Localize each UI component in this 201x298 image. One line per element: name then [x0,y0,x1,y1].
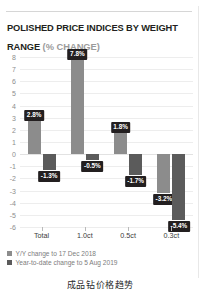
x-axis-label: Total [34,231,49,240]
bar [71,59,84,154]
legend-label: Y/Y change to 17 Dec 2018 [16,250,97,257]
y-axis-tick-label: 8 [2,54,16,61]
gridline [20,142,193,143]
bar-value-label: -1.7% [125,176,147,187]
bar [86,154,99,160]
gridline [20,130,193,131]
right-divider [198,6,199,278]
y-axis-tick-label: -6 [2,224,16,231]
y-axis-tick-label: 1 [2,139,16,146]
y-axis-tick-label: -5 [2,211,16,218]
gridline [20,106,193,107]
y-axis-tick-label: -3 [2,187,16,194]
legend-swatch-icon [7,260,12,265]
y-axis-tick-label: 5 [2,90,16,97]
bar [157,154,170,193]
bar [43,154,56,170]
bar [129,154,142,175]
y-axis-tick-label: 6 [2,78,16,85]
gridline [20,81,193,82]
gridline [20,93,193,94]
bar-value-label: -1.3% [38,171,60,182]
bar-value-label: 2.8% [24,110,44,121]
y-axis-tick-label: 2 [2,126,16,133]
plot-area: 876543210-1-2-3-4-5-62.8%-1.3%7.8%-0.5%1… [20,57,193,227]
y-axis-tick-label: -4 [2,199,16,206]
chart-legend: Y/Y change to 17 Dec 2018Year-to-date ch… [7,250,193,268]
legend-item: Year-to-date change to 5 Aug 2019 [7,259,193,266]
x-axis-label: 1.0ct [77,231,93,240]
legend-item: Y/Y change to 17 Dec 2018 [7,250,193,257]
y-axis-tick-label: -1 [2,163,16,170]
gridline [20,57,193,58]
chart-card: POLISHED PRICE INDICES BY WEIGHT RANGE (… [0,0,201,298]
page-title: POLISHED PRICE INDICES BY WEIGHT RANGE (… [7,17,193,55]
y-axis-tick-label: 0 [2,151,16,158]
y-axis-tick-label: 7 [2,66,16,73]
x-axis-label: 0.3ct [164,231,180,240]
gridline [20,69,193,70]
bar [172,154,185,220]
legend-swatch-icon [7,251,12,256]
x-axis-label: 0.5ct [120,231,136,240]
gridline [20,215,193,216]
y-axis-tick-label: -2 [2,175,16,182]
bar-value-label: 1.8% [111,122,131,133]
bar [114,132,127,154]
bar-value-label: 7.8% [68,49,88,60]
bar-value-label: -0.5% [82,161,104,172]
bar [28,120,41,154]
y-axis-tick-label: 4 [2,102,16,109]
caption-chinese: 成品钻价格趋势 [0,278,201,291]
y-axis-tick-label: 3 [2,114,16,121]
gridline [20,118,193,119]
legend-label: Year-to-date change to 5 Aug 2019 [16,259,118,266]
top-divider [6,11,192,12]
bar-chart: 876543210-1-2-3-4-5-62.8%-1.3%7.8%-0.5%1… [4,57,197,239]
x-axis: Total1.0ct0.5ct0.3ct [20,227,193,239]
